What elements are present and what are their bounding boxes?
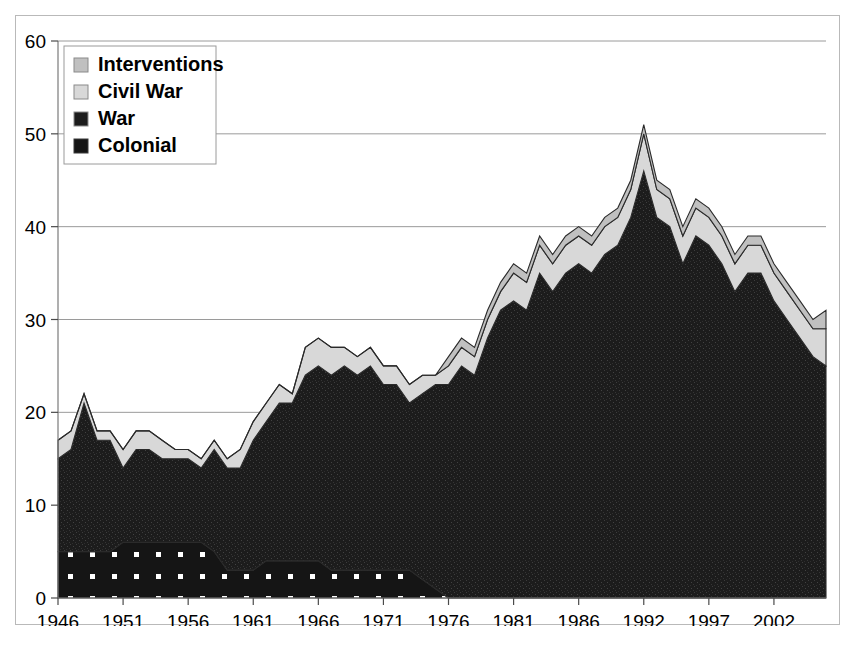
x-tick-label: 2002 xyxy=(753,611,795,626)
legend-swatch xyxy=(74,139,88,153)
legend-label: Interventions xyxy=(98,53,224,75)
legend-swatch xyxy=(74,112,88,126)
x-tick-label: 1951 xyxy=(102,611,144,626)
y-tick-label: 20 xyxy=(25,402,46,423)
x-tick-label: 1981 xyxy=(492,611,534,626)
legend-label: Civil War xyxy=(98,80,183,102)
x-tick-label: 1956 xyxy=(167,611,209,626)
legend-swatch xyxy=(74,58,88,72)
y-tick-label: 0 xyxy=(35,588,46,609)
y-tick-label: 60 xyxy=(25,31,46,52)
chart-legend: InterventionsCivil WarWarColonial xyxy=(64,46,224,164)
area-series-layer xyxy=(58,125,826,598)
x-tick-label: 1946 xyxy=(37,611,79,626)
x-tick-label: 1992 xyxy=(623,611,665,626)
y-tick-label: 10 xyxy=(25,495,46,516)
legend-label: War xyxy=(98,107,135,129)
y-tick-label: 50 xyxy=(25,124,46,145)
stacked-area-chart: 0102030405060 19461951195619611966197119… xyxy=(16,16,841,626)
x-tick-label: 1976 xyxy=(427,611,469,626)
x-tick-label: 1966 xyxy=(297,611,339,626)
x-axis-labels: 1946195119561961196619711976198119861992… xyxy=(37,611,795,626)
chart-frame: 0102030405060 19461951195619611966197119… xyxy=(15,15,840,625)
legend-label: Colonial xyxy=(98,134,177,156)
x-tick-label: 1971 xyxy=(362,611,404,626)
y-axis-labels: 0102030405060 xyxy=(25,31,46,609)
legend-swatch xyxy=(74,85,88,99)
y-tick-label: 40 xyxy=(25,217,46,238)
x-tick-label: 1961 xyxy=(232,611,274,626)
x-tick-label: 1986 xyxy=(558,611,600,626)
y-tick-label: 30 xyxy=(25,310,46,331)
x-tick-label: 1997 xyxy=(688,611,730,626)
